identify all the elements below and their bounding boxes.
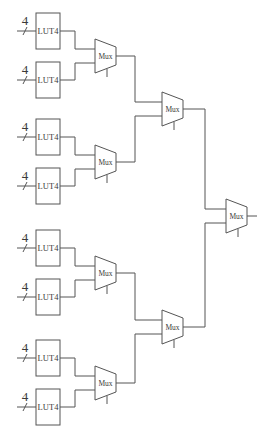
input-wire — [183, 223, 226, 327]
bus-width-label: 4 — [22, 279, 29, 294]
mux: Mux — [226, 199, 247, 237]
lut-mux-tree-diagram: LUT44LUT44LUT44LUT44LUT44LUT44LUT44LUT44… — [0, 0, 268, 435]
lut-label: LUT4 — [38, 243, 60, 253]
bus-width-label: 4 — [22, 119, 29, 134]
lut-label: LUT4 — [38, 132, 60, 142]
input-wire — [60, 169, 95, 186]
bus-width-label: 4 — [22, 62, 29, 77]
input-wire — [60, 390, 95, 407]
mux-label: Mux — [98, 379, 112, 388]
input-wire — [60, 31, 95, 49]
bus-width-label: 4 — [22, 340, 29, 355]
lut4-block: LUT44 — [17, 168, 60, 204]
lut-label: LUT4 — [38, 292, 60, 302]
input-wire — [116, 273, 162, 320]
lut4-block: LUT44 — [17, 279, 60, 315]
lut4-block: LUT44 — [17, 119, 60, 155]
input-wire — [60, 248, 95, 266]
mux: Mux — [95, 145, 116, 183]
lut-label: LUT4 — [38, 353, 60, 363]
lut4-block: LUT44 — [17, 389, 60, 425]
bus-width-label: 4 — [22, 389, 29, 404]
input-wire — [60, 137, 95, 155]
input-wire — [183, 109, 226, 209]
lut4-block: LUT44 — [17, 340, 60, 376]
mux: Mux — [95, 366, 116, 404]
mux-label: Mux — [98, 269, 112, 278]
mux: Mux — [95, 256, 116, 294]
input-wire — [116, 56, 162, 102]
bus-width-label: 4 — [22, 230, 29, 245]
mux-label: Mux — [165, 323, 179, 332]
bus-width-label: 4 — [22, 168, 29, 183]
mux: Mux — [162, 310, 183, 348]
lut4-block: LUT44 — [17, 62, 60, 98]
lut-label: LUT4 — [38, 181, 60, 191]
mux-label: Mux — [229, 212, 243, 221]
diagram-svg: LUT44LUT44LUT44LUT44LUT44LUT44LUT44LUT44… — [0, 0, 268, 435]
input-wire — [60, 63, 95, 80]
input-wire — [116, 334, 162, 383]
mux: Mux — [162, 92, 183, 130]
mux-label: Mux — [98, 52, 112, 61]
mux-label: Mux — [165, 105, 179, 114]
lut-label: LUT4 — [38, 26, 60, 36]
lut4-block: LUT44 — [17, 230, 60, 266]
bus-width-label: 4 — [22, 13, 29, 28]
input-wire — [60, 358, 95, 376]
lut-label: LUT4 — [38, 75, 60, 85]
lut4-block: LUT44 — [17, 13, 60, 49]
mux: Mux — [95, 39, 116, 77]
input-wire — [116, 116, 162, 162]
input-wire — [60, 280, 95, 297]
lut-label: LUT4 — [38, 402, 60, 412]
mux-label: Mux — [98, 158, 112, 167]
